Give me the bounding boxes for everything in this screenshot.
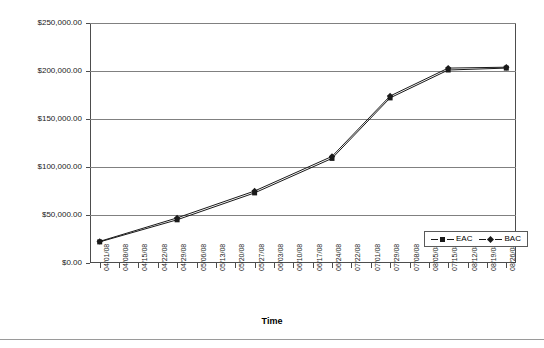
series-lines	[0, 0, 544, 348]
series-line-eac	[100, 68, 507, 242]
chart-container: $0.00$50,000.00$100,000.00$150,000.00$20…	[0, 0, 544, 348]
legend-marker-square	[440, 237, 445, 242]
legend-line-segment	[479, 239, 486, 240]
legend-entry-eac[interactable]: EAC	[431, 235, 472, 243]
legend-line-segment	[495, 239, 502, 240]
legend-line-segment	[447, 239, 454, 240]
legend-marker-diamond	[487, 235, 494, 242]
legend-line-segment	[431, 239, 438, 240]
legend-entry-bac[interactable]: BAC	[479, 235, 520, 243]
legend-label: BAC	[504, 235, 520, 243]
legend-label: EAC	[456, 235, 472, 243]
x-axis-title: Time	[0, 316, 544, 326]
chart-legend[interactable]: EACBAC	[424, 231, 528, 247]
footer-divider	[0, 339, 544, 340]
series-line-bac	[100, 67, 507, 241]
